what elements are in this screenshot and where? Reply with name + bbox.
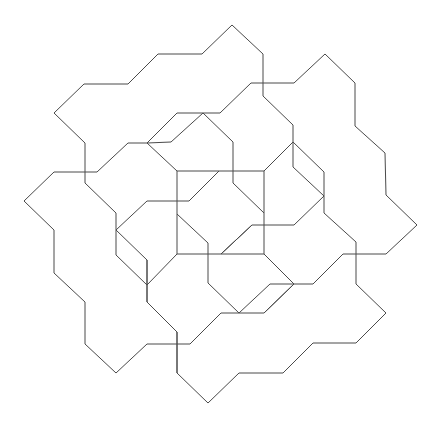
outline-segment [54,25,324,254]
outline-segment [239,284,270,313]
outline-segment [221,225,252,254]
zigzag-outlines [24,25,417,403]
outline-segment [177,214,239,313]
outline-segment [116,230,147,302]
outline-segment [264,254,294,284]
outline-segment [116,171,219,230]
outline-segment [147,142,386,403]
outline-segment [24,172,239,373]
tiling-diagram [0,0,442,424]
outline-segment [147,113,220,143]
outline-segment [85,143,177,285]
central-square [177,171,264,254]
outline-segment [97,143,177,172]
outline-segment [147,113,264,213]
outline-segment [264,284,294,313]
outline-segment [220,54,417,313]
outline-segment [264,142,293,171]
